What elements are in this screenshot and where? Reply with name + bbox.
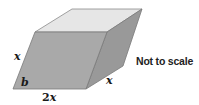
bottom-edge-coefficient: 2 [42, 91, 50, 104]
not-to-scale-note: Not to scale [136, 55, 193, 67]
bottom-edge-label: 2x [42, 91, 57, 104]
parallelepiped-diagram: x b 2x x [0, 0, 199, 105]
left-edge-label: x [13, 50, 21, 63]
depth-edge-label: x [105, 74, 113, 87]
bottom-edge-variable: x [49, 91, 57, 104]
angle-label: b [21, 76, 29, 89]
